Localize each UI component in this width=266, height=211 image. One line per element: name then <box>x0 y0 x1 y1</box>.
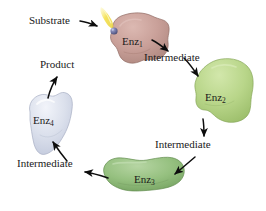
label-substrate: Substrate <box>29 15 70 26</box>
label-enz3-name: Enz <box>134 173 151 185</box>
label-enz1: Enz1 <box>122 36 143 47</box>
label-enz1-subscript: 1 <box>139 40 143 49</box>
label-intermediate-1: Intermediate <box>144 52 200 63</box>
label-enz4: Enz4 <box>33 115 54 126</box>
label-enz1-name: Enz <box>122 35 139 47</box>
diagram-canvas <box>0 0 266 211</box>
label-enz3-subscript: 3 <box>151 178 155 187</box>
label-intermediate-3: Intermediate <box>17 158 73 169</box>
label-enz4-subscript: 4 <box>50 119 54 128</box>
enzyme-pathway-figure: Substrate Product Intermediate Intermedi… <box>0 0 266 211</box>
arrow-substrate-pointer <box>80 21 97 26</box>
enz2-shape <box>195 59 253 123</box>
substrate-molecule-icon <box>110 27 117 34</box>
label-enz4-name: Enz <box>33 114 50 126</box>
label-intermediate-2: Intermediate <box>155 139 211 150</box>
label-enz2-subscript: 2 <box>222 96 226 105</box>
label-enz3: Enz3 <box>134 174 155 185</box>
substrate-beam-icon <box>100 7 113 28</box>
label-enz2: Enz2 <box>205 92 226 103</box>
label-product: Product <box>40 59 74 70</box>
arrow-enz2-to-intermediate2 <box>203 119 204 136</box>
label-enz2-name: Enz <box>205 91 222 103</box>
arrow-enz4-to-product <box>48 77 57 98</box>
